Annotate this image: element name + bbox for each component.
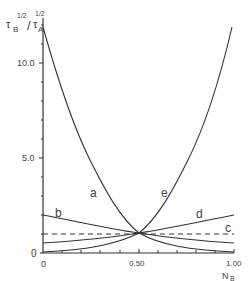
curve-label-a: a bbox=[90, 186, 97, 200]
svg-text:B: B bbox=[13, 25, 18, 34]
svg-text:A: A bbox=[38, 25, 44, 34]
chart: 0 5.0 10.0 0 0.50 1.00 τ B 1/2 / τ A 1/2… bbox=[0, 0, 249, 281]
x-tick-label-100: 1.00 bbox=[226, 259, 242, 268]
curve-d bbox=[43, 215, 234, 243]
svg-text:/: / bbox=[27, 18, 31, 33]
x-axis-label: N B bbox=[222, 271, 235, 281]
svg-text:τ: τ bbox=[6, 18, 11, 30]
y-tick-label-10: 10.0 bbox=[17, 58, 35, 68]
y-axis-label: τ B 1/2 / τ A 1/2 bbox=[6, 10, 45, 34]
svg-text:N: N bbox=[222, 271, 229, 281]
svg-text:1/2: 1/2 bbox=[17, 12, 27, 19]
curve-b bbox=[43, 215, 234, 243]
y-tick-label-0: 0 bbox=[31, 248, 37, 259]
curve-label-c: c bbox=[225, 221, 231, 235]
curve-e bbox=[43, 27, 232, 252]
curve-label-e: e bbox=[161, 186, 168, 200]
curve-label-b: b bbox=[55, 206, 62, 220]
x-tick-label-050: 0.50 bbox=[129, 259, 145, 268]
curve-a bbox=[43, 27, 234, 252]
svg-text:B: B bbox=[230, 275, 235, 281]
svg-text:1/2: 1/2 bbox=[35, 10, 45, 17]
y-tick-label-5: 5.0 bbox=[22, 153, 35, 163]
x-tick-label-0: 0 bbox=[41, 259, 46, 269]
curve-label-d: d bbox=[196, 207, 203, 221]
